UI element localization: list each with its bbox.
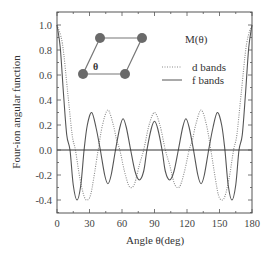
legend-label-d-bands: d bands [192, 61, 226, 73]
x-tick-label: 150 [212, 218, 228, 229]
legend: M(θ) d bands f bands [162, 33, 226, 86]
legend-label-f-bands: f bands [192, 74, 224, 86]
x-tick-label: 60 [117, 218, 128, 229]
y-tick-label: 0.4 [39, 95, 53, 106]
angle-theta-label: θ [93, 61, 98, 72]
ion-node-top-right [137, 33, 147, 43]
series-f-bands [57, 25, 252, 200]
x-tick-label: 90 [149, 218, 160, 229]
y-tick-label: 0.8 [39, 45, 52, 56]
y-tick-label: 0.2 [39, 120, 52, 131]
plot-frame [57, 12, 252, 213]
y-tick-label: -0.4 [35, 195, 52, 206]
y-tick-label: -0.2 [35, 170, 52, 181]
plot-area [57, 25, 252, 200]
x-tick-label: 120 [179, 218, 195, 229]
x-tick-label: 30 [84, 218, 95, 229]
y-axis-title: Four-ion angular function [10, 55, 22, 169]
x-tick-label: 0 [54, 218, 59, 229]
ion-node-bottom-left [78, 69, 88, 79]
chart-figure: 0306090120150180-0.4-0.20.00.20.40.60.81… [0, 0, 274, 256]
y-tick-label: 0.0 [39, 145, 52, 156]
inset-rhombus-diagram: θ [78, 33, 147, 79]
legend-title: M(θ) [185, 33, 208, 46]
series-d-bands [57, 25, 252, 200]
ion-node-bottom-right [120, 69, 130, 79]
y-tick-label: 0.6 [39, 70, 52, 81]
ion-node-top-left [95, 33, 105, 43]
axes: 0306090120150180-0.4-0.20.00.20.40.60.81… [35, 12, 260, 229]
x-tick-label: 180 [244, 218, 260, 229]
y-tick-label: 1.0 [39, 20, 52, 31]
rhombus-outline [83, 38, 142, 74]
x-axis-title: Angle θ(deg) [126, 234, 184, 247]
